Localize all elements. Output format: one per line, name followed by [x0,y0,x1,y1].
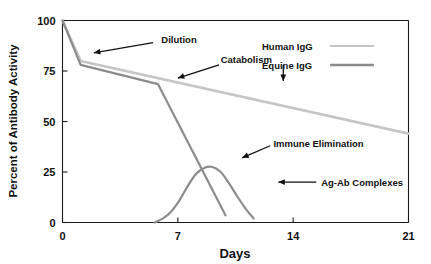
annotation-label: Immune Elimination [273,138,363,149]
antibody-activity-line-chart: 0255075100 071421 DilutionCatabolismImmu… [0,0,431,264]
annotation-arrow-shaft [94,43,153,53]
x-tick-label: 0 [59,230,65,242]
annotation-label: Ag-Ab Complexes [321,177,403,188]
annotation-arrow-head [94,49,101,55]
y-tick-label: 100 [37,15,55,27]
legend-label: Human IgG [262,41,313,52]
y-tick-label: 75 [43,65,55,77]
x-tick-label: 14 [287,230,300,242]
data-series-group [63,21,409,223]
x-axis-title: Days [219,246,250,261]
y-tick-label: 50 [43,116,55,128]
y-tick-labels: 0255075100 [37,15,55,229]
annotation-arrow-head [280,75,286,82]
annotation-label: Dilution [161,34,197,45]
x-tick-label: 21 [402,230,414,242]
y-axis-title: Percent of Antibody Activity [7,44,19,198]
series-equine-igg [63,21,226,216]
chart-figure: 0255075100 071421 DilutionCatabolismImmu… [0,0,431,264]
legend-label: Equine IgG [262,60,312,71]
x-tick-labels: 071421 [59,230,414,242]
chart-annotations: DilutionCatabolismImmune EliminationAg-A… [94,34,403,187]
series-human-igg [63,21,409,134]
y-tick-label: 25 [43,166,55,178]
x-tick-label: 7 [175,230,181,242]
annotation-arrow-head [178,73,185,79]
annotation-arrow-head [278,179,285,185]
chart-legend: Human IgGEquine IgG [262,41,374,71]
y-tick-label: 0 [49,217,55,229]
